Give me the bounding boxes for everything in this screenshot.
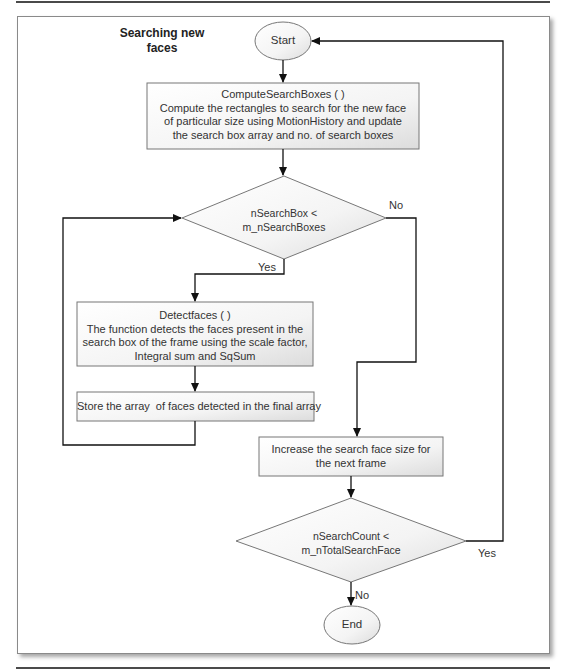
compute-line: the search box array and no. of search b… [147, 129, 419, 143]
decision1-line: m_nSearchBoxes [204, 221, 364, 235]
store-node-text: Store the array of faces detected in the… [77, 400, 314, 414]
decision2-no-label: No [355, 589, 369, 601]
decision2-text: nSearchCount < m_nTotalSearchFace [271, 530, 431, 557]
decision2-line: nSearchCount < [271, 530, 431, 544]
diagram-title: Searching new faces [112, 26, 212, 56]
bottom-rule [16, 667, 550, 669]
decision2-yes-label: Yes [478, 547, 496, 559]
increase-line: Increase the search face size for [259, 443, 443, 457]
detect-node-text: Detectfaces ( ) The function detects the… [77, 309, 313, 363]
title-line: faces [112, 41, 212, 56]
compute-line: of particular size using MotionHistory a… [147, 115, 419, 129]
decision1-line: nSearchBox < [204, 207, 364, 221]
decision1-yes-label: Yes [258, 261, 276, 273]
detect-line: Detectfaces ( ) [77, 309, 313, 323]
compute-line: Compute the rectangles to search for the… [147, 102, 419, 116]
decision1-text: nSearchBox < m_nSearchBoxes [204, 207, 364, 234]
title-line: Searching new [112, 26, 212, 41]
compute-node-text: ComputeSearchBoxes ( ) Compute the recta… [147, 88, 419, 142]
increase-node-text: Increase the search face size for the ne… [259, 443, 443, 470]
decision1-no-label: No [389, 199, 403, 211]
edge-decision1-no-increase [357, 218, 416, 436]
compute-line: ComputeSearchBoxes ( ) [147, 88, 419, 102]
increase-line: the next frame [259, 457, 443, 471]
detect-line: Integral sum and SqSum [77, 350, 313, 364]
detect-line: The function detects the faces present i… [77, 323, 313, 337]
end-label: End [324, 618, 380, 632]
decision2-line: m_nTotalSearchFace [271, 544, 431, 558]
start-label: Start [255, 34, 311, 48]
detect-line: search box of the frame using the scale … [77, 336, 313, 350]
